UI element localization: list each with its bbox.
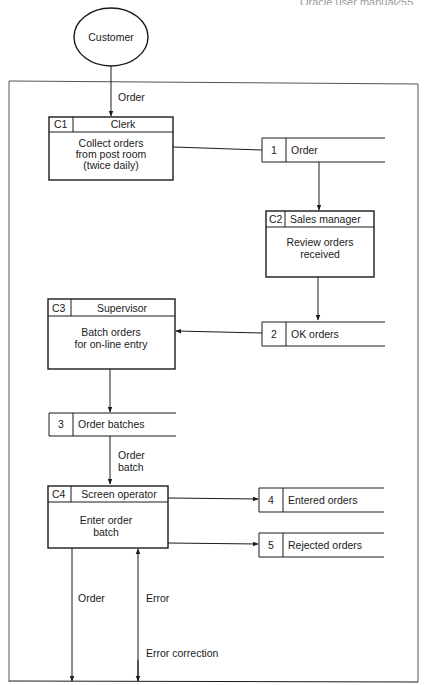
process-c3: C3 Supervisor Batch orders for on-line e… [48,299,175,369]
process-c3-actor: Supervisor [97,302,148,314]
process-c2-actor: Sales manager [290,213,361,225]
data-store-3-label: Order batches [78,418,145,430]
process-c4-actor: Screen operator [81,488,157,500]
flow-label-order-out: Order [78,592,105,604]
data-store-2: 2 OK orders [262,322,385,346]
process-c1-actor: Clerk [111,118,136,130]
data-store-2-id: 2 [271,328,277,340]
flow-c4-to-store4 [168,498,258,499]
data-store-3-id: 3 [58,418,64,430]
customer-label: Customer [88,31,134,43]
flow-label-order-in: Order [118,91,145,103]
page-header-page-number: 255 [395,0,413,8]
process-c3-desc-line2: for on-line entry [75,338,149,350]
external-entity-customer: Customer [74,8,148,66]
data-store-4: 4 Entered orders [259,488,384,512]
flow-c4-to-store5 [168,543,258,544]
process-c4-desc-line1: Enter order [80,514,133,526]
data-flow-diagram: Oracle user manual 255 Customer Order C1… [0,0,426,685]
data-store-5-id: 5 [268,539,274,551]
data-store-3: 3 Order batches [49,413,176,436]
data-store-4-label: Entered orders [288,494,357,506]
data-store-1-label: Order [291,144,318,156]
process-c4: C4 Screen operator Enter order batch [48,486,168,548]
flow-label-error-correction: Error correction [146,647,219,659]
flow-c1-to-store1 [173,147,262,150]
process-c1: C1 Clerk Collect orders from post room (… [49,117,173,180]
data-store-2-label: OK orders [291,328,339,340]
data-store-1-outline [262,138,385,162]
data-store-4-id: 4 [268,494,274,506]
process-c4-desc-line2: batch [93,526,119,538]
process-c1-id: C1 [54,118,68,130]
data-store-1-id: 1 [271,144,277,156]
process-c3-desc-line1: Batch orders [81,326,141,338]
process-c2-desc-line1: Review orders [286,236,353,248]
flow-store2-to-c3 [176,331,262,333]
flow-label-order-batch-line1: Order [118,449,145,461]
data-store-5-label: Rejected orders [288,539,362,551]
data-store-5: 5 Rejected orders [259,533,384,557]
page-header-title: Oracle user manual [300,0,396,8]
process-c3-id: C3 [52,302,66,314]
process-c2-id: C2 [269,213,283,225]
page-header: Oracle user manual 255 [300,0,413,8]
flow-label-error: Error [146,592,170,604]
process-c4-id: C4 [52,488,66,500]
data-store-1: 1 Order [262,138,385,162]
process-c2: C2 Sales manager Review orders received [266,211,374,277]
process-c1-desc-line3: (twice daily) [83,159,138,171]
system-boundary-bottom [9,681,418,682]
flow-label-order-batch-line2: batch [118,461,144,473]
process-c2-desc-line2: received [300,248,340,260]
